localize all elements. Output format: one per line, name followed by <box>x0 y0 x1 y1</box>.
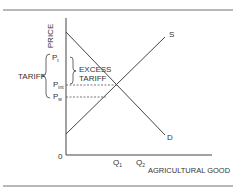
svg-text:Pw: Pw <box>53 92 62 102</box>
svg-text:Q2: Q2 <box>136 158 145 168</box>
p-w-label: Pw <box>53 92 62 102</box>
y-axis-label: PRICE <box>46 24 55 48</box>
svg-text:Q1: Q1 <box>113 158 122 168</box>
p-int-label: Pint <box>53 80 64 90</box>
demand-label: D <box>167 133 173 142</box>
tariff-label: TARIFF <box>18 72 46 81</box>
excess-tariff-label-line1: EXCESS <box>79 65 111 74</box>
svg-text:Pint: Pint <box>53 80 64 90</box>
tariff-supply-demand-diagram: PRICE 0 D S Pt Pint Pw TARIFF EXCESS TAR… <box>0 0 237 192</box>
p-t-label: Pt <box>52 53 59 63</box>
q1-label: Q1 <box>113 158 122 168</box>
origin-label: 0 <box>58 152 63 161</box>
svg-text:Pt: Pt <box>52 53 59 63</box>
q2-label: Q2 <box>136 158 145 168</box>
excess-tariff-brace <box>70 57 76 84</box>
supply-label: S <box>169 30 174 39</box>
x-axis-label: AGRICULTURAL GOOD <box>148 166 231 175</box>
excess-tariff-label-line2: TARIFF <box>79 74 107 83</box>
